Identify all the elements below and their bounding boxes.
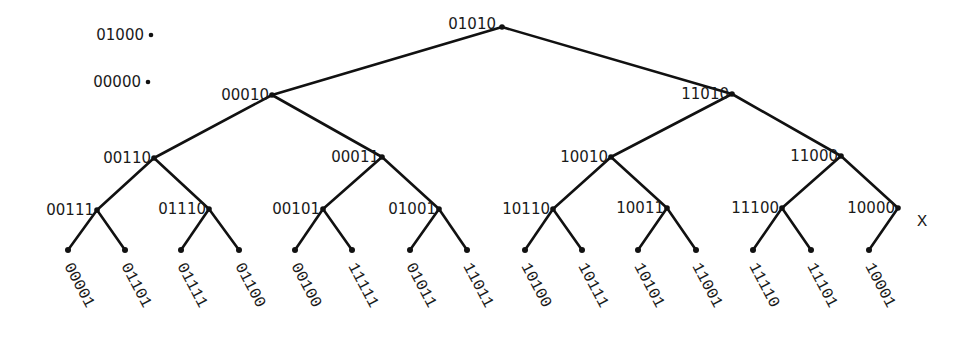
leaf-dot <box>693 247 699 253</box>
x-marker-label: X <box>917 212 927 231</box>
leaf-label: 10001 <box>861 260 899 311</box>
node-label: 00110 <box>103 149 151 167</box>
leaf-dot <box>65 247 71 253</box>
leaf-label: 10111 <box>574 260 612 311</box>
leaf-dot <box>522 247 528 253</box>
node-dot <box>608 154 614 160</box>
leaf-labels: 0000101101011110110000100111110101111011… <box>60 260 899 311</box>
leaf-dot <box>808 247 814 253</box>
node-label: 10110 <box>502 200 550 218</box>
node-label: 10011 <box>616 199 664 217</box>
tree-edge <box>272 27 502 95</box>
leaf-label: 01101 <box>117 260 155 311</box>
node-dot <box>320 206 326 212</box>
node-label: 10000 <box>847 199 895 217</box>
leaf-label: 11110 <box>745 260 783 311</box>
tree-node-labels: 0101000010110100011000011100101100000111… <box>46 15 895 219</box>
tree-edge <box>154 95 272 158</box>
leaf-edge <box>323 209 352 250</box>
leaf-label: 11111 <box>344 260 382 311</box>
leaf-dot <box>635 247 641 253</box>
node-label: 11100 <box>731 199 779 217</box>
leaf-label: 11001 <box>688 260 726 311</box>
leaf-dot <box>407 247 413 253</box>
node-dot <box>838 153 844 159</box>
leaf-edge <box>667 208 696 250</box>
node-dot <box>269 92 275 98</box>
node-dot <box>779 205 785 211</box>
node-dot <box>436 206 442 212</box>
leaf-edge <box>209 209 239 250</box>
leaf-dot <box>178 247 184 253</box>
leaf-dot <box>236 247 242 253</box>
node-dot <box>379 154 385 160</box>
node-dot <box>729 91 735 97</box>
leaf-dot <box>349 247 355 253</box>
tree-edge <box>502 27 732 94</box>
leaf-edge <box>439 209 467 250</box>
binary-tree-diagram: 0101000010110100011000011100101100000111… <box>0 0 965 348</box>
isolated-node-dot <box>146 80 151 85</box>
isolated-node-dot <box>149 33 154 38</box>
leaf-dot <box>292 247 298 253</box>
node-dot <box>94 207 100 213</box>
node-dot <box>206 206 212 212</box>
leaf-label: 01111 <box>173 260 211 311</box>
isolated-node-label: 01000 <box>96 26 144 44</box>
leaf-label: 00001 <box>60 260 98 311</box>
leaf-label: 01100 <box>231 260 269 311</box>
leaf-dot <box>464 247 470 253</box>
leaf-label: 11101 <box>803 260 841 311</box>
isolated-nodes: 0100000000 <box>93 26 153 91</box>
isolated-node-label: 00000 <box>93 73 141 91</box>
node-dot <box>895 205 901 211</box>
leaf-dot <box>579 247 585 253</box>
leaf-label: 01011 <box>402 260 440 311</box>
node-label: 01001 <box>388 200 436 218</box>
node-label: 00101 <box>272 200 320 218</box>
node-label: 00010 <box>221 86 269 104</box>
leaf-label: 10101 <box>630 260 668 311</box>
node-label: 01110 <box>158 200 206 218</box>
leaf-edge <box>97 210 125 250</box>
node-dot <box>499 24 505 30</box>
leaf-dot <box>122 247 128 253</box>
node-label: 00111 <box>46 201 94 219</box>
node-label: 11010 <box>681 85 729 103</box>
leaf-label: 00100 <box>287 260 325 311</box>
tree-edge <box>611 94 732 157</box>
leaf-edge <box>553 209 582 250</box>
leaf-dot <box>750 247 756 253</box>
node-label: 00011 <box>331 148 379 166</box>
leaf-label: 11011 <box>459 260 497 311</box>
node-dot <box>151 155 157 161</box>
node-label: 10010 <box>560 148 608 166</box>
node-label: 01010 <box>448 15 496 33</box>
leaf-label: 10100 <box>517 260 555 311</box>
leaf-edge <box>782 208 811 250</box>
leaf-dot <box>866 247 872 253</box>
node-dot <box>664 205 670 211</box>
node-dot <box>550 206 556 212</box>
node-label: 11000 <box>790 147 838 165</box>
